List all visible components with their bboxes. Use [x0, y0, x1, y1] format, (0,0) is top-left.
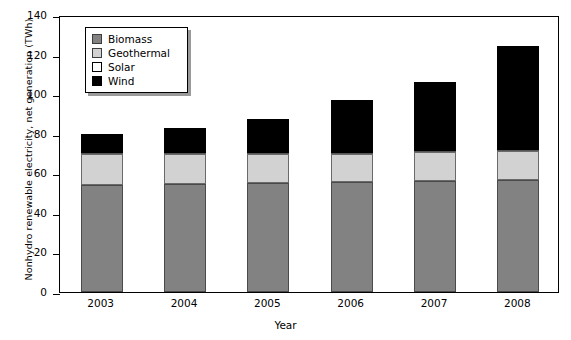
- bar-2005[interactable]: [247, 119, 289, 292]
- bar-segment-wind-2005[interactable]: [247, 119, 289, 153]
- bar-segment-biomass-2005[interactable]: [247, 183, 289, 292]
- bar-segment-wind-2006[interactable]: [331, 100, 373, 152]
- x-tick-label-2004: 2004: [139, 297, 229, 309]
- bar-segment-geothermal-2008[interactable]: [497, 151, 539, 181]
- y-tick-mark: [53, 294, 60, 295]
- x-tick-label-2005: 2005: [222, 297, 312, 309]
- bar-segment-biomass-2006[interactable]: [331, 182, 373, 292]
- y-tick-mark: [53, 175, 60, 176]
- legend-label: Wind: [108, 75, 134, 87]
- bar-2004[interactable]: [164, 128, 206, 292]
- bar-segment-geothermal-2006[interactable]: [331, 154, 373, 183]
- bar-segment-biomass-2007[interactable]: [414, 181, 456, 292]
- y-tick-mark: [53, 96, 60, 97]
- bar-segment-biomass-2003[interactable]: [81, 185, 123, 292]
- bar-segment-wind-2003[interactable]: [81, 134, 123, 153]
- bar-segment-geothermal-2005[interactable]: [247, 154, 289, 184]
- legend-label: Geothermal: [108, 47, 170, 59]
- x-tick-label-2008: 2008: [472, 297, 562, 309]
- bar-segment-wind-2008[interactable]: [497, 46, 539, 150]
- y-tick-mark: [53, 254, 60, 255]
- bar-segment-geothermal-2007[interactable]: [414, 152, 456, 182]
- legend-item-solar[interactable]: Solar: [92, 60, 182, 74]
- y-tick-label: 120: [27, 49, 47, 61]
- legend-swatch-geothermal-icon: [92, 48, 102, 58]
- bar-2008[interactable]: [497, 46, 539, 292]
- y-tick-label: 100: [27, 88, 47, 100]
- legend-swatch-biomass-icon: [92, 34, 102, 44]
- y-axis-title: Nonhydro renewable electricity, net gene…: [23, 0, 34, 300]
- x-tick-label-2003: 2003: [56, 297, 146, 309]
- bar-segment-geothermal-2003[interactable]: [81, 154, 123, 186]
- bar-2006[interactable]: [331, 100, 373, 292]
- legend-item-wind[interactable]: Wind: [92, 74, 182, 88]
- chart-figure: Nonhydro renewable electricity, net gene…: [0, 0, 571, 340]
- bar-2007[interactable]: [414, 82, 456, 292]
- bar-2003[interactable]: [81, 134, 123, 292]
- bar-segment-wind-2004[interactable]: [164, 128, 206, 153]
- x-tick-label-2007: 2007: [389, 297, 479, 309]
- bar-segment-geothermal-2004[interactable]: [164, 154, 206, 185]
- y-tick-mark: [53, 136, 60, 137]
- bar-segment-wind-2007[interactable]: [414, 82, 456, 150]
- x-axis-title: Year: [0, 319, 571, 331]
- y-tick-label: 140: [27, 9, 47, 21]
- y-tick-mark: [53, 215, 60, 216]
- bar-segment-biomass-2008[interactable]: [497, 180, 539, 292]
- y-tick-label: 40: [34, 207, 47, 219]
- y-tick-label: 60: [34, 167, 47, 179]
- chart-legend: BiomassGeothermalSolarWind: [85, 27, 188, 93]
- legend-item-biomass[interactable]: Biomass: [92, 32, 182, 46]
- y-tick-mark: [53, 17, 60, 18]
- bar-segment-biomass-2004[interactable]: [164, 184, 206, 292]
- y-tick-mark: [53, 57, 60, 58]
- legend-label: Solar: [108, 61, 135, 73]
- legend-item-geothermal[interactable]: Geothermal: [92, 46, 182, 60]
- y-tick-label: 20: [34, 246, 47, 258]
- legend-swatch-wind-icon: [92, 76, 102, 86]
- x-tick-label-2006: 2006: [306, 297, 396, 309]
- y-tick-label: 80: [34, 128, 47, 140]
- y-tick-label: 0: [40, 286, 47, 298]
- legend-label: Biomass: [108, 33, 152, 45]
- legend-swatch-solar-icon: [92, 62, 102, 72]
